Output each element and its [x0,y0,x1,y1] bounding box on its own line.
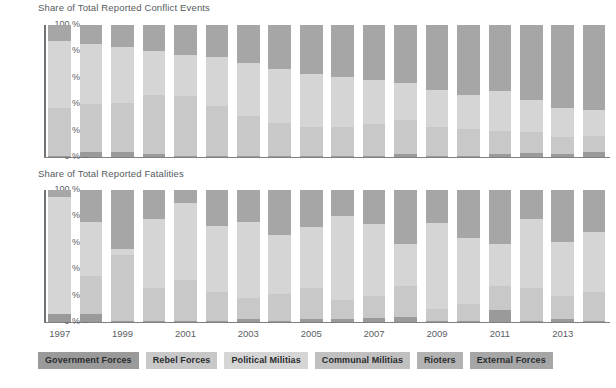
bar-segment-political_militias [520,219,543,288]
stacked-bar[interactable] [520,25,543,157]
bar-segment-rebel_forces [143,288,166,321]
legend-item-communal_militias[interactable]: Communal Militias [315,352,410,369]
bar-segment-political_militias [268,69,291,123]
bar-slot [201,25,232,157]
bar-segment-external_forces [520,190,543,219]
stacked-bar[interactable] [268,190,291,322]
bar-slot [516,25,547,157]
bar-segment-government_forces [206,156,229,157]
bar-segment-external_forces [237,190,260,222]
stacked-bar[interactable] [394,190,417,322]
bar-segment-political_militias [363,224,386,295]
stacked-bar[interactable] [331,25,354,157]
stacked-bar[interactable] [583,190,606,322]
stacked-bar[interactable] [551,25,574,157]
bar-segment-external_forces [143,25,166,51]
bar-segment-rebel_forces [143,95,166,154]
stacked-bar[interactable] [80,190,103,322]
stacked-bar[interactable] [457,25,480,157]
stacked-bar[interactable] [363,190,386,322]
x-axis-slot: 2001 [170,326,201,344]
legend-item-label: Political Militias [231,355,300,365]
stacked-bar[interactable] [426,25,449,157]
bar-segment-rebel_forces [174,280,197,321]
bar-slot [358,25,389,157]
bar-slot [453,25,484,157]
bar-segment-political_militias [206,57,229,106]
bar-segment-political_militias [551,108,574,137]
bar-segment-external_forces [111,190,134,249]
bar-segment-political_militias [237,222,260,299]
bar-segment-rebel_forces [80,276,103,314]
bar-segment-government_forces [426,321,449,322]
stacked-bar[interactable] [331,190,354,322]
bar-segment-rebel_forces [426,309,449,321]
bar-segment-external_forces [48,190,71,197]
x-axis-slot [516,326,547,344]
bar-slot [44,190,75,322]
bar-segment-government_forces [457,156,480,157]
chart-panel-fatalities: Share of Total Reported Fatalities 0 %20… [0,166,616,326]
bar-slot [484,25,515,157]
bar-segment-political_militias [143,219,166,288]
plot-area-conflict-events: 0 %20 %40 %60 %80 %100 % [44,25,610,157]
stacked-bar[interactable] [174,25,197,157]
bar-segment-political_militias [80,222,103,276]
legend-item-government_forces[interactable]: Government Forces [38,352,139,369]
stacked-bar[interactable] [520,190,543,322]
stacked-bar[interactable] [237,190,260,322]
legend-item-political_militias[interactable]: Political Militias [224,352,307,369]
stacked-bar[interactable] [300,190,323,322]
stacked-bar[interactable] [300,25,323,157]
bar-segment-external_forces [237,25,260,63]
bar-segment-external_forces [426,190,449,223]
bar-segment-rebel_forces [363,296,386,318]
stacked-bar[interactable] [394,25,417,157]
stacked-bar[interactable] [143,25,166,157]
bar-segment-political_militias [331,216,354,299]
stacked-bar[interactable] [111,25,134,157]
bar-segment-government_forces [237,156,260,157]
stacked-bar[interactable] [174,190,197,322]
bar-segment-government_forces [111,152,134,157]
x-axis-tick-label: 2007 [364,328,385,339]
stacked-bar[interactable] [268,25,291,157]
bar-segment-political_militias [489,91,512,131]
bar-slot [296,190,327,322]
legend-item-rebel_forces[interactable]: Rebel Forces [146,352,218,369]
stacked-bar[interactable] [111,190,134,322]
stacked-bar[interactable] [80,25,103,157]
x-axis-tick-label: 2001 [175,328,196,339]
bar-slot [107,190,138,322]
stacked-bar[interactable] [551,190,574,322]
stacked-bar[interactable] [206,25,229,157]
stacked-bar[interactable] [489,25,512,157]
stacked-bar[interactable] [206,190,229,322]
stacked-bar[interactable] [489,190,512,322]
bar-segment-political_militias [426,223,449,309]
bar-segment-political_militias [48,197,71,314]
bar-segment-rebel_forces [111,103,134,152]
bar-segment-rebel_forces [489,131,512,155]
stacked-bar[interactable] [143,190,166,322]
bar-slot [327,190,358,322]
stacked-bar[interactable] [363,25,386,157]
stacked-bar[interactable] [48,190,71,322]
bar-segment-political_militias [489,244,512,286]
bar-segment-political_militias [394,244,417,286]
bar-segment-rebel_forces [111,255,134,321]
chart-legend: Government ForcesRebel ForcesPolitical M… [38,352,553,369]
stacked-bar[interactable] [237,25,260,157]
bar-segment-external_forces [363,190,386,224]
bar-slot [264,190,295,322]
bar-segment-rebel_forces [394,120,417,154]
bar-segment-external_forces [143,190,166,219]
legend-item-rioters[interactable]: Rioters [417,352,463,369]
stacked-bar[interactable] [48,25,71,157]
bar-group-conflict-events [44,25,610,157]
stacked-bar[interactable] [426,190,449,322]
stacked-bar[interactable] [457,190,480,322]
bar-segment-external_forces [394,25,417,83]
legend-item-external_forces[interactable]: External Forces [470,352,553,369]
stacked-bar[interactable] [583,25,606,157]
